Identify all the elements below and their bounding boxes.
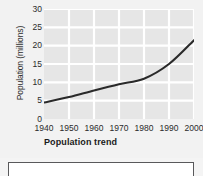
y-axis-tick-labels: 051015202530 bbox=[24, 9, 42, 119]
x-tick-1960: 1960 bbox=[85, 122, 104, 134]
x-tick-1940: 1940 bbox=[35, 122, 54, 134]
y-tick-10: 10 bbox=[26, 78, 42, 87]
population-trend-chart: Population (millions) 051015202530 19401… bbox=[0, 0, 203, 158]
x-axis-tick-labels: 1940195019601970198019902000 bbox=[44, 122, 194, 134]
x-tick-1990: 1990 bbox=[160, 122, 179, 134]
figure-panel: Population (millions) 051015202530 19401… bbox=[0, 0, 203, 176]
y-tick-5: 5 bbox=[26, 96, 42, 105]
plot-svg bbox=[44, 9, 194, 119]
chart-title: Population trend bbox=[44, 137, 117, 147]
x-tick-1950: 1950 bbox=[60, 122, 79, 134]
y-tick-20: 20 bbox=[26, 41, 42, 50]
y-tick-25: 25 bbox=[26, 23, 42, 32]
plot-area bbox=[44, 9, 194, 119]
y-tick-30: 30 bbox=[26, 5, 42, 14]
x-tick-1980: 1980 bbox=[135, 122, 154, 134]
x-tick-2000: 2000 bbox=[185, 122, 203, 134]
x-tick-1970: 1970 bbox=[110, 122, 129, 134]
answer-box[interactable] bbox=[8, 162, 194, 176]
y-tick-15: 15 bbox=[26, 60, 42, 69]
